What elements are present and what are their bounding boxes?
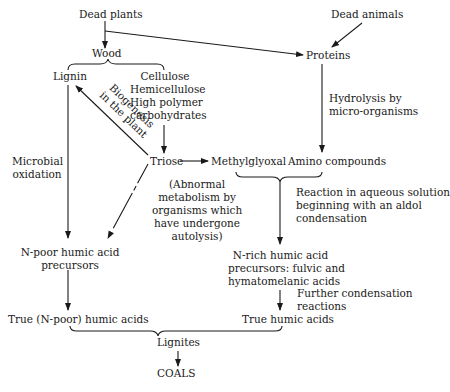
brace-humic	[70, 326, 282, 336]
node-proteins: Proteins	[306, 49, 350, 62]
node-n-poor-line1: N-poor humic acid	[20, 246, 120, 259]
label-hydrolysis-line2: micro-organisms	[329, 105, 418, 118]
label-aqueous-line2: beginning with an aldol	[296, 199, 450, 212]
node-n-poor-line2: precursors	[20, 259, 120, 272]
label-microbial-oxidation: Microbial oxidation	[12, 155, 62, 181]
node-methylglyoxal: Methylglyoxal	[211, 155, 286, 168]
label-abnormal-line5: autolysis)	[152, 230, 242, 243]
label-further-line1: Further condensation	[297, 287, 413, 300]
label-hydrolysis: Hydrolysis by micro-organisms	[329, 92, 418, 118]
label-abnormal-line4: have undergone	[152, 217, 242, 230]
node-n-rich-line2: precursors: fulvic and	[228, 262, 333, 275]
node-hemicellulose: Hemicellulose	[130, 83, 200, 96]
node-amino-compounds: Amino compounds	[288, 155, 386, 168]
node-n-rich-precursors: N-rich humic acid precursors: fulvic and…	[228, 249, 333, 288]
label-microbial-line1: Microbial	[12, 155, 62, 168]
label-further-condensation: Further condensation reactions	[297, 287, 413, 313]
node-lignin: Lignin	[53, 70, 87, 83]
node-dead-animals: Dead animals	[331, 8, 403, 21]
arrow-deadanimals-proteins	[332, 23, 362, 47]
node-cellulose: Cellulose	[130, 70, 200, 83]
label-aqueous-line3: condensation	[296, 212, 450, 225]
node-true-humic: True humic acids	[242, 313, 334, 326]
node-n-poor-precursors: N-poor humic acid precursors	[20, 246, 120, 272]
label-further-line2: reactions	[297, 300, 413, 313]
arrow-deadplants-proteins	[105, 31, 303, 55]
label-abnormal-line3: organisms which	[152, 204, 242, 217]
node-n-rich-line1: N-rich humic acid	[228, 249, 333, 262]
brace-wood	[68, 59, 164, 70]
label-aqueous-line1: Reaction in aqueous solution	[296, 186, 450, 199]
label-hydrolysis-line1: Hydrolysis by	[329, 92, 418, 105]
node-true-n-poor-humic: True (N-poor) humic acids	[8, 313, 149, 326]
label-abnormal-line1: (Abnormal	[152, 178, 242, 191]
node-wood: Wood	[92, 47, 121, 60]
arrow-triose-npoor	[108, 164, 148, 238]
node-coals: COALS	[157, 367, 195, 380]
node-dead-plants: Dead plants	[79, 8, 143, 21]
node-triose: Triose	[150, 155, 183, 168]
label-microbial-line2: oxidation	[12, 168, 62, 181]
label-abnormal-metabolism: (Abnormal metabolism by organisms which …	[152, 178, 242, 243]
label-abnormal-line2: metabolism by	[152, 191, 242, 204]
brace-methyl-amino	[236, 172, 322, 182]
label-aqueous-reaction: Reaction in aqueous solution beginning w…	[296, 186, 450, 225]
node-lignites: Lignites	[157, 336, 200, 349]
